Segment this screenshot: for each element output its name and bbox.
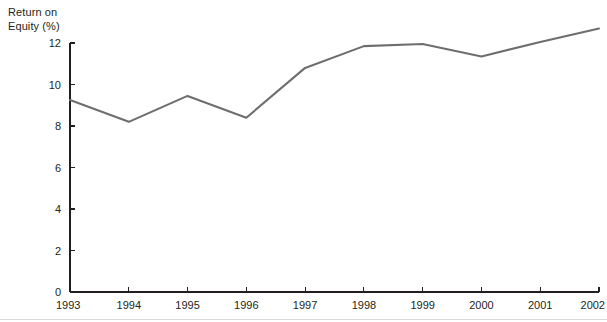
y-tick-label: 10 xyxy=(49,79,61,91)
y-axis-tick-marks xyxy=(70,43,75,251)
x-tick-label: 2000 xyxy=(469,299,493,311)
y-axis-tick-labels: 024681012 xyxy=(49,37,61,298)
x-tick-label: 1993 xyxy=(56,299,80,311)
y-tick-label: 2 xyxy=(55,245,61,257)
x-tick-label: 2002 xyxy=(581,299,605,311)
y-tick-label: 12 xyxy=(49,37,61,49)
x-axis-tick-labels: 1993199419951996199719981999200020012002 xyxy=(56,299,605,311)
chart-container: Return onEquity (%) 024681012 1993199419… xyxy=(0,0,607,322)
x-tick-label: 1995 xyxy=(175,299,199,311)
x-tick-label: 1999 xyxy=(410,299,434,311)
y-tick-label: 0 xyxy=(55,286,61,298)
y-tick-label: 8 xyxy=(55,120,61,132)
y-tick-label: 4 xyxy=(55,203,61,215)
x-tick-label: 1998 xyxy=(352,299,376,311)
x-tick-label: 1996 xyxy=(234,299,258,311)
x-tick-label: 2001 xyxy=(528,299,552,311)
x-tick-label: 1994 xyxy=(117,299,141,311)
y-tick-label: 6 xyxy=(55,162,61,174)
x-tick-label: 1997 xyxy=(293,299,317,311)
data-series-line xyxy=(70,28,599,121)
line-chart-plot: 024681012 199319941995199619971998199920… xyxy=(0,0,607,322)
x-axis-tick-marks xyxy=(129,287,599,292)
footer-divider xyxy=(0,319,607,320)
